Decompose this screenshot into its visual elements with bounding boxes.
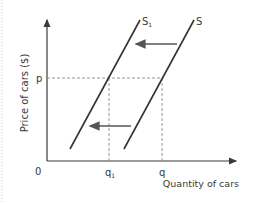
price-label: p <box>36 73 42 84</box>
supply-curve-s1 <box>70 20 140 149</box>
y-axis-label: Price of cars ($) <box>19 54 30 133</box>
supply-curve-s <box>124 20 194 149</box>
supply-shift-diagram: Price of cars ($) Quantity of cars 0 p q… <box>0 0 253 203</box>
s-curve-label: S <box>196 16 202 27</box>
x-axis-label: Quantity of cars <box>163 178 239 189</box>
q-label: q <box>159 167 165 178</box>
s1-curve-label: S1 <box>142 16 152 28</box>
q1-label: q1 <box>105 167 115 179</box>
origin-label: 0 <box>35 166 41 177</box>
